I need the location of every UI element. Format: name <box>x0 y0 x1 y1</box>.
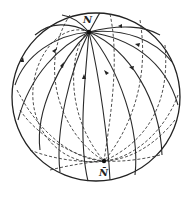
top-pole-label: N <box>83 15 92 25</box>
sphere-drawing <box>0 0 195 197</box>
top-pole-point <box>87 30 91 34</box>
bottom-pole-point <box>102 159 106 163</box>
bottom-pole-label: N̄ <box>99 168 108 178</box>
sphere-diagram: N N̄ <box>0 0 195 197</box>
hidden-meridians <box>17 14 178 170</box>
